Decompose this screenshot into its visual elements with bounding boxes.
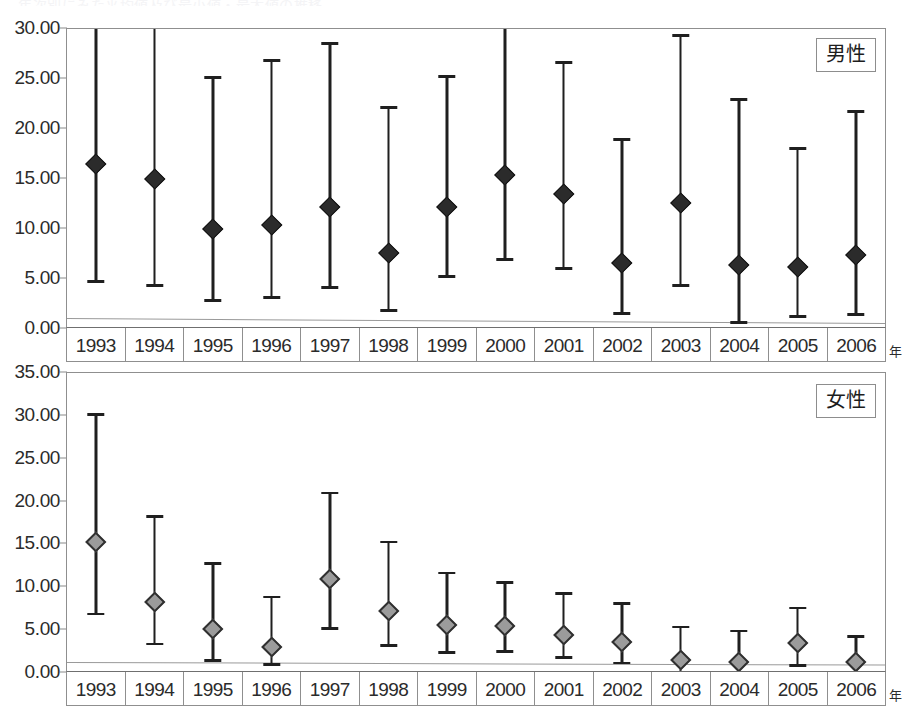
legend-male-label: 男性 — [826, 42, 866, 66]
plot-area-male — [66, 28, 886, 328]
x-tick-label: 1994 — [125, 672, 184, 706]
x-axis-female: 1993199419951996199719981999200020012002… — [66, 672, 886, 706]
chart-panel-male: 0.005.0010.0015.0020.0025.0030.00 男性 199… — [0, 18, 894, 348]
data-marker — [787, 256, 808, 277]
data-point — [125, 29, 183, 327]
data-marker — [495, 164, 516, 185]
data-point — [593, 29, 651, 327]
data-marker — [553, 624, 574, 645]
error-bar-cap-upper — [789, 607, 806, 610]
error-bar-line — [854, 113, 857, 316]
error-bar-line — [153, 28, 156, 287]
data-point — [768, 29, 826, 327]
x-tick-label: 2004 — [710, 328, 769, 362]
x-tick-label: 1993 — [66, 672, 125, 706]
data-point — [301, 373, 359, 671]
error-bar-line — [562, 64, 565, 270]
x-tick-label: 2005 — [768, 672, 827, 706]
data-point — [67, 29, 125, 327]
data-marker — [670, 192, 691, 213]
error-bar-cap-lower — [555, 267, 572, 270]
data-marker — [202, 218, 223, 239]
error-bar-line — [796, 150, 799, 318]
data-marker — [436, 614, 457, 635]
legend-male: 男性 — [816, 38, 876, 72]
legend-female-label: 女性 — [826, 388, 866, 412]
y-tick-label: 5.00 — [25, 267, 60, 289]
y-tick-label: 15.00 — [14, 167, 60, 189]
y-axis-female: 0.005.0010.0015.0020.0025.0030.0035.00 — [0, 362, 66, 712]
data-marker — [319, 569, 340, 590]
data-marker — [319, 196, 340, 217]
y-tick-label: 20.00 — [14, 117, 60, 139]
data-marker — [144, 168, 165, 189]
x-tick-label: 2003 — [651, 328, 710, 362]
x-tick-label: 2006 — [827, 328, 887, 362]
data-point — [710, 29, 768, 327]
error-bar-line — [329, 45, 332, 289]
data-marker — [144, 591, 165, 612]
x-tick-label: 1998 — [359, 672, 418, 706]
y-tick-label: 15.00 — [14, 532, 60, 554]
x-tick-label: 1996 — [242, 672, 301, 706]
data-marker — [553, 183, 574, 204]
x-axis-male: 1993199419951996199719981999200020012002… — [66, 328, 886, 362]
data-marker — [202, 618, 223, 639]
x-tick-label: 2001 — [534, 328, 593, 362]
error-bar-cap-lower — [321, 286, 338, 289]
error-bar-cap-lower — [438, 275, 455, 278]
error-bar-cap-upper — [438, 75, 455, 78]
error-bar-cap-lower — [205, 299, 222, 302]
x-tick-label: 1998 — [359, 328, 418, 362]
error-bar-cap-lower — [614, 662, 631, 665]
x-axis-unit-male: 年 — [889, 341, 902, 360]
error-bar-cap-lower — [146, 284, 163, 287]
series-male — [67, 29, 885, 327]
data-marker — [728, 254, 749, 275]
data-marker — [86, 153, 107, 174]
legend-female: 女性 — [816, 384, 876, 418]
x-tick-label: 1993 — [66, 328, 125, 362]
error-bar-cap-upper — [205, 76, 222, 79]
error-bar-cap-lower — [205, 659, 222, 662]
error-bar-cap-upper — [263, 596, 280, 599]
data-point — [534, 29, 592, 327]
error-bar-line — [212, 565, 215, 662]
x-tick-label: 2002 — [593, 328, 652, 362]
page-title: 年次別にみた平均値及び最小値・最大値の推移 — [18, 0, 878, 6]
error-bar-line — [270, 62, 273, 299]
y-tick-label: 0.00 — [25, 661, 60, 683]
x-tick-label: 2000 — [476, 672, 535, 706]
error-bar-cap-lower — [730, 321, 747, 324]
error-bar-cap-lower — [263, 663, 280, 666]
error-bar-line — [212, 79, 215, 302]
error-bar-cap-upper — [614, 602, 631, 605]
x-tick-label: 1995 — [183, 672, 242, 706]
data-point — [593, 373, 651, 671]
x-tick-label: 2002 — [593, 672, 652, 706]
error-bar-cap-upper — [789, 147, 806, 150]
y-tick-label: 10.00 — [14, 217, 60, 239]
error-bar-line — [329, 494, 332, 629]
plot-area-female — [66, 372, 886, 672]
data-marker — [611, 252, 632, 273]
y-tick-label: 35.00 — [14, 361, 60, 383]
error-bar-cap-lower — [497, 258, 514, 261]
error-bar-cap-lower — [88, 280, 105, 283]
error-bar-cap-upper — [321, 42, 338, 45]
error-bar-cap-upper — [555, 61, 572, 64]
data-point — [534, 373, 592, 671]
x-tick-label: 1997 — [300, 672, 359, 706]
x-tick-label: 2001 — [534, 672, 593, 706]
error-bar-cap-upper — [88, 413, 105, 416]
data-point — [418, 373, 476, 671]
error-bar-cap-upper — [380, 106, 397, 109]
error-bar-cap-lower — [672, 284, 689, 287]
error-bar-cap-lower — [88, 613, 105, 616]
data-marker — [436, 196, 457, 217]
error-bar-cap-upper — [497, 581, 514, 584]
error-bar-line — [621, 141, 624, 315]
error-bar-cap-lower — [614, 312, 631, 315]
error-bar-cap-upper — [555, 592, 572, 595]
data-point — [184, 373, 242, 671]
